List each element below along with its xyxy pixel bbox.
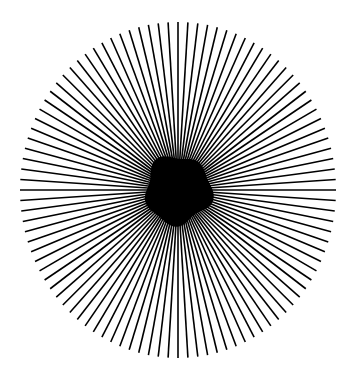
starburst-figure: [0, 0, 357, 372]
